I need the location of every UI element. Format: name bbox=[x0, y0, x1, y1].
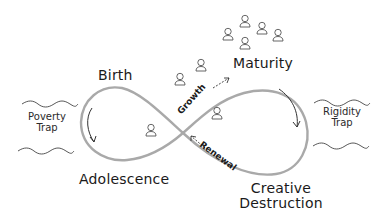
person-icon-maturity-1 bbox=[240, 15, 250, 27]
poverty-trap-line-1: Poverty bbox=[18, 111, 76, 122]
rigidity-trap-line-2: Trap bbox=[313, 117, 371, 128]
lifecycle-diagram: Birth Maturity Adolescence Creative Dest… bbox=[0, 0, 387, 219]
person-icon-growth-1 bbox=[175, 73, 185, 85]
stage-label-maturity: Maturity bbox=[233, 56, 293, 70]
left-loop-arrow-icon bbox=[88, 108, 96, 142]
stage-label-creative-destruction: Creative Destruction bbox=[236, 181, 326, 211]
rigidity-trap-line-1: Rigidity bbox=[313, 106, 371, 117]
rigidity-trap-label: Rigidity Trap bbox=[313, 106, 371, 128]
person-icon-adolescence bbox=[146, 124, 156, 136]
stage-label-birth: Birth bbox=[98, 68, 133, 82]
stage-label-adolescence: Adolescence bbox=[79, 172, 169, 186]
person-icon-maturity-5 bbox=[240, 37, 250, 49]
person-icon-growth-2 bbox=[196, 59, 206, 71]
person-icon-maturity-2 bbox=[223, 28, 233, 40]
creative-destruction-line-2: Destruction bbox=[236, 196, 326, 211]
poverty-trap-label: Poverty Trap bbox=[18, 111, 76, 133]
creative-destruction-line-1: Creative bbox=[236, 181, 326, 196]
person-icon-maturity-4 bbox=[273, 29, 283, 41]
growth-arrow-icon bbox=[213, 78, 229, 88]
person-icon-maturity-3 bbox=[257, 22, 267, 34]
poverty-trap-line-2: Trap bbox=[18, 122, 76, 133]
